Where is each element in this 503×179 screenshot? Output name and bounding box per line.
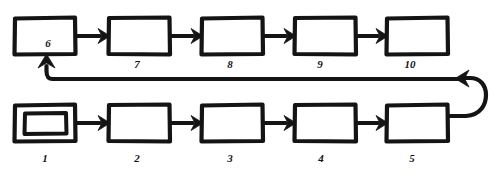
node-label-3: 3 (226, 152, 233, 164)
node-label-2: 2 (133, 152, 140, 164)
node-10[interactable] (387, 18, 449, 55)
node-label-4: 4 (317, 152, 324, 164)
node-4[interactable] (295, 105, 357, 142)
node-8[interactable] (202, 18, 264, 55)
edge-8-9 (264, 29, 296, 44)
node-label-5: 5 (409, 152, 415, 164)
node-9[interactable] (295, 18, 357, 55)
edge-9-10 (357, 29, 388, 44)
node-2[interactable] (109, 105, 171, 142)
node-label-6: 6 (45, 37, 51, 49)
edge-4-5 (357, 116, 388, 131)
node-label-9: 9 (317, 58, 323, 70)
node-1[interactable] (15, 105, 76, 142)
edge-1-2 (77, 116, 110, 131)
edge-7-8 (171, 29, 203, 44)
node-label-10: 10 (405, 58, 417, 70)
node-5[interactable] (387, 105, 449, 142)
edge-2-3 (171, 116, 203, 131)
edge-6-7 (77, 29, 110, 44)
node-label-8: 8 (227, 58, 233, 70)
node-3[interactable] (202, 105, 264, 142)
node-label-1: 1 (42, 152, 48, 164)
node-label-7: 7 (134, 58, 140, 70)
flowchart-canvas: 6 7 8 9 10 1 2 3 4 5 (0, 0, 503, 179)
node-7[interactable] (109, 18, 171, 55)
flowchart-svg: 6 7 8 9 10 1 2 3 4 5 (0, 0, 503, 179)
edge-3-4 (264, 116, 296, 131)
